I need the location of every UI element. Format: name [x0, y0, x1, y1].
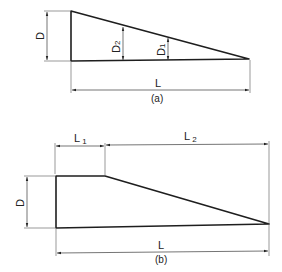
diagram-canvas: D D2 D1 L (a) L1 L2 [0, 0, 282, 272]
length-dimension-line [57, 251, 268, 253]
figure-b-caption: (b) [155, 254, 167, 265]
figure-a: D D2 D1 L (a) [34, 11, 250, 104]
length-label: L [155, 77, 161, 89]
length1-label: L1 [74, 132, 87, 146]
depth1-label: D1 [155, 43, 167, 56]
figure-a-caption: (a) [151, 93, 163, 104]
length2-dimension-line [106, 144, 268, 145]
depth2-label: D2 [110, 40, 122, 53]
depth-label: D [34, 32, 46, 40]
figure-b: L1 L2 D L (b) [14, 130, 269, 265]
tapered-trapezoid-shape [56, 176, 269, 228]
depth-label: D [14, 199, 26, 207]
length-label: L [158, 239, 164, 251]
length2-label: L2 [184, 130, 197, 144]
